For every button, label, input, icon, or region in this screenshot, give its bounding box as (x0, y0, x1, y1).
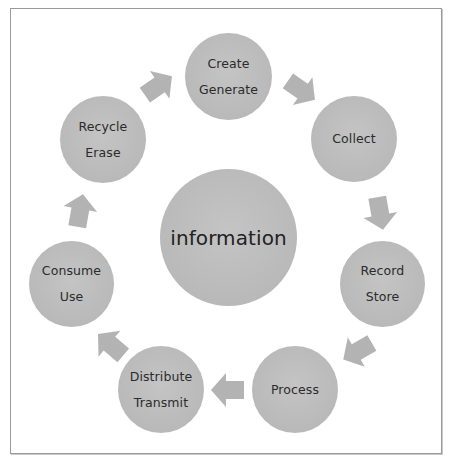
stage-label-line1: Recycle (79, 114, 128, 140)
block-arrow-icon (359, 192, 401, 234)
stage-label-line2: Store (366, 284, 400, 310)
stage-label-line1: Collect (332, 126, 376, 152)
stage-node-record: Record Store (340, 241, 425, 327)
stage-label-line1: Process (271, 377, 319, 403)
stage-node-process: Process (252, 346, 338, 433)
stage-label-line1: Record (361, 258, 405, 284)
stage-node-create: Create Generate (185, 33, 272, 120)
center-label: information (170, 226, 287, 250)
stage-node-distribute: Distribute Transmit (118, 346, 204, 433)
center-node-information: information (160, 169, 297, 306)
stage-label-line1: Create (207, 51, 249, 77)
block-arrow-icon (210, 372, 246, 408)
block-arrow-icon (59, 190, 101, 232)
stage-node-collect: Collect (311, 96, 397, 182)
stage-label-line1: Consume (42, 258, 101, 284)
stage-label-line2: Use (60, 284, 84, 310)
stage-node-consume: Consume Use (29, 241, 114, 327)
stage-label-line2: Erase (85, 140, 120, 166)
stage-node-recycle: Recycle Erase (60, 96, 146, 183)
stage-label-line1: Distribute (130, 364, 193, 390)
stage-label-line2: Transmit (134, 390, 188, 416)
stage-label-line2: Generate (199, 77, 258, 103)
